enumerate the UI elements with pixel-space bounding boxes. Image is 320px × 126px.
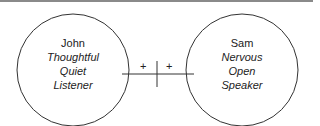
node-sam-label: Sam Nervous Open Speaker — [197, 36, 287, 92]
plus-sign-left: + — [140, 60, 146, 72]
node-trait: Thoughtful — [28, 50, 118, 64]
node-trait: Listener — [28, 78, 118, 92]
node-name: Sam — [231, 37, 254, 49]
node-trait: Nervous — [197, 50, 287, 64]
plus-sign-right: + — [166, 60, 172, 72]
node-trait: Speaker — [197, 78, 287, 92]
node-trait: Quiet — [28, 64, 118, 78]
connector-right-sign: + — [166, 59, 186, 73]
node-trait: Open — [197, 64, 287, 78]
node-john-label: John Thoughtful Quiet Listener — [28, 36, 118, 92]
node-name: John — [61, 37, 85, 49]
